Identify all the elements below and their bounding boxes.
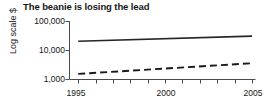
data-series-layer <box>78 36 252 74</box>
series-line-dashed-series <box>78 63 252 74</box>
series-line-solid-series <box>78 36 252 41</box>
chart-figure: The beanie is losing the lead Log scale … <box>0 0 272 110</box>
axis-lines <box>70 21 256 80</box>
plot-area <box>0 0 272 110</box>
y-axis-ticks <box>66 22 70 80</box>
